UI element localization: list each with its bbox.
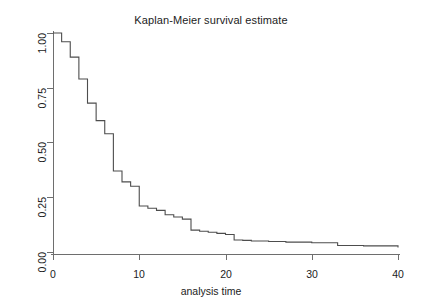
x-tick-label-3: 30 — [292, 268, 332, 280]
x-axis-label: analysis time — [0, 285, 422, 297]
axes-group — [51, 31, 400, 254]
y-tick-label-4: 1.00 — [36, 33, 48, 73]
chart-canvas — [0, 0, 422, 308]
y-tick-label-3: 0.75 — [36, 88, 48, 128]
survival-step-curve — [53, 33, 398, 248]
x-tick-label-1: 10 — [119, 268, 159, 280]
x-tick-label-0: 0 — [33, 268, 73, 280]
x-tick-label-2: 20 — [206, 268, 246, 280]
kaplan-meier-chart-figure: Kaplan-Meier survival estimate 0.00 0.25… — [0, 0, 422, 308]
y-tick-label-2: 0.50 — [36, 142, 48, 182]
y-tick-label-1: 0.25 — [36, 197, 48, 237]
x-tick-label-4: 40 — [378, 268, 418, 280]
x-tick-marks — [53, 254, 398, 260]
